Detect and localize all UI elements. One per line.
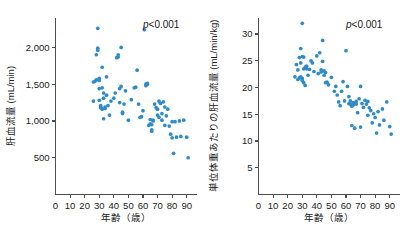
data-point bbox=[116, 55, 120, 59]
data-point bbox=[172, 151, 176, 155]
y-tick-label: 10 bbox=[242, 135, 253, 146]
data-point bbox=[105, 75, 109, 79]
data-point bbox=[169, 132, 173, 136]
data-point bbox=[160, 112, 164, 116]
pvalue-value: <0.001 bbox=[149, 19, 180, 30]
data-point bbox=[382, 118, 386, 122]
pvalue-annotation: p<0.001 bbox=[345, 19, 383, 30]
x-tick-label: 70 bbox=[355, 200, 366, 211]
data-point bbox=[118, 101, 122, 105]
data-point bbox=[389, 132, 393, 136]
data-point bbox=[375, 131, 379, 135]
x-tick-label: 50 bbox=[326, 200, 337, 211]
x-tick-label: 60 bbox=[138, 200, 149, 211]
data-point bbox=[366, 100, 370, 104]
x-tick-label: 90 bbox=[181, 200, 192, 211]
y-tick-label: 20 bbox=[242, 82, 253, 93]
data-point bbox=[173, 120, 177, 124]
data-point bbox=[373, 116, 377, 120]
x-tick-label: 70 bbox=[152, 200, 163, 211]
data-point bbox=[295, 63, 299, 67]
data-point bbox=[96, 26, 100, 30]
data-point bbox=[327, 83, 331, 87]
x-tick-label: 10 bbox=[268, 200, 279, 211]
data-point bbox=[359, 85, 363, 89]
data-point bbox=[182, 118, 186, 122]
data-point bbox=[312, 70, 316, 74]
data-point bbox=[102, 91, 106, 95]
data-point bbox=[338, 104, 342, 108]
data-point bbox=[306, 73, 310, 77]
x-tick-label: 0 bbox=[53, 200, 58, 211]
data-point bbox=[185, 135, 189, 139]
y-tick-group: 51015202530 bbox=[242, 28, 259, 173]
data-point bbox=[388, 125, 392, 129]
y-tick-label: 5 bbox=[247, 162, 252, 173]
data-point bbox=[372, 112, 376, 116]
data-point bbox=[157, 115, 161, 119]
pvalue-value: <0.001 bbox=[352, 19, 383, 30]
data-point bbox=[163, 105, 167, 109]
data-point bbox=[109, 99, 113, 103]
data-point bbox=[151, 118, 155, 122]
data-point bbox=[334, 85, 338, 89]
x-axis-title: 年齢（歳） bbox=[304, 212, 354, 223]
data-point bbox=[175, 135, 179, 139]
data-point bbox=[108, 113, 112, 117]
data-point bbox=[119, 85, 123, 89]
data-point bbox=[343, 99, 347, 103]
data-point bbox=[106, 104, 110, 108]
data-point bbox=[354, 102, 358, 106]
data-point bbox=[362, 105, 366, 109]
data-point bbox=[357, 97, 361, 101]
plot-svg-left: 5001,0001,5002,000 0102030405060708090 p… bbox=[0, 0, 204, 243]
data-point bbox=[318, 51, 322, 55]
y-tick-group: 5001,0001,5002,000 bbox=[26, 42, 56, 163]
data-point bbox=[146, 82, 150, 86]
data-point bbox=[311, 61, 315, 65]
data-point bbox=[113, 91, 117, 95]
data-point bbox=[97, 99, 101, 103]
data-point bbox=[137, 102, 141, 106]
data-point bbox=[119, 46, 123, 50]
data-point bbox=[96, 46, 100, 50]
y-tick-label: 30 bbox=[242, 28, 253, 39]
data-point bbox=[308, 68, 312, 72]
data-point bbox=[121, 110, 125, 114]
x-tick-label: 90 bbox=[384, 200, 395, 211]
data-point bbox=[166, 107, 170, 111]
data-point bbox=[315, 54, 319, 58]
data-point bbox=[105, 93, 109, 97]
data-point bbox=[99, 104, 103, 108]
data-point bbox=[124, 89, 128, 93]
data-point bbox=[341, 80, 345, 84]
data-point bbox=[385, 100, 389, 104]
data-point bbox=[330, 76, 334, 80]
x-tick-label: 20 bbox=[79, 200, 90, 211]
data-point bbox=[127, 118, 131, 122]
data-point bbox=[346, 85, 350, 89]
y-tick-label: 25 bbox=[242, 55, 253, 66]
data-point bbox=[356, 111, 360, 115]
data-point bbox=[156, 107, 160, 111]
x-tick-label: 30 bbox=[297, 200, 308, 211]
data-point-group bbox=[92, 26, 190, 159]
data-point bbox=[296, 68, 300, 72]
data-point bbox=[94, 53, 98, 57]
y-axis-title: 肝血流量 (mL/min) bbox=[5, 66, 16, 146]
data-point bbox=[359, 125, 363, 129]
x-tick-label: 60 bbox=[341, 200, 352, 211]
data-point bbox=[300, 22, 304, 26]
data-point bbox=[102, 117, 106, 121]
data-point bbox=[299, 61, 303, 65]
y-tick-label: 1,500 bbox=[26, 79, 50, 90]
data-point bbox=[92, 99, 96, 103]
x-tick-label: 50 bbox=[123, 200, 134, 211]
data-point-group bbox=[293, 22, 393, 136]
data-point bbox=[337, 100, 341, 104]
data-point bbox=[150, 123, 154, 127]
data-point bbox=[112, 96, 116, 100]
data-point bbox=[340, 89, 344, 93]
data-point bbox=[332, 89, 336, 93]
data-point bbox=[122, 102, 126, 106]
